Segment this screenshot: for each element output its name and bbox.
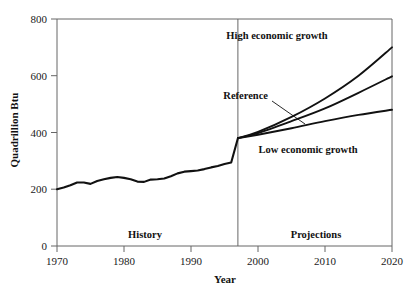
history-region-label: History [128, 229, 163, 240]
y-axis-title: Quadrillion Btu [8, 93, 20, 168]
low-economic-growth-label: Low economic growth [259, 144, 358, 155]
x-tick-label-2010: 2010 [314, 255, 337, 267]
x-tick-label-1970: 1970 [46, 255, 69, 267]
x-tick-label-2000: 2000 [247, 255, 270, 267]
reference-label: Reference [223, 90, 268, 101]
energy-consumption-line-chart: 0 200 400 600 800 1970 1980 1990 2000 20… [0, 0, 415, 295]
y-tick-label-800: 800 [31, 13, 48, 25]
x-tick-label-1980: 1980 [113, 255, 136, 267]
y-tick-label-200: 200 [31, 183, 48, 195]
y-tick-label-0: 0 [42, 240, 48, 252]
y-tick-label-400: 400 [31, 127, 48, 139]
chart-container: 0 200 400 600 800 1970 1980 1990 2000 20… [0, 0, 415, 295]
x-axis-title: Year [214, 273, 236, 285]
projections-region-label: Projections [291, 229, 342, 240]
x-tick-label-2020: 2020 [381, 255, 404, 267]
y-tick-label-600: 600 [31, 70, 48, 82]
x-tick-label-1990: 1990 [180, 255, 203, 267]
high-economic-growth-label: High economic growth [226, 30, 327, 41]
